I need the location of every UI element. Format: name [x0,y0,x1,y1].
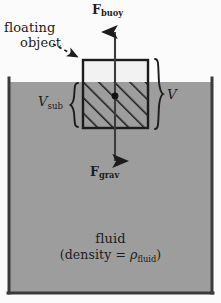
volume-total-label: V [167,88,177,102]
floating-object-line2: object [4,36,61,51]
density-prefix: (density = [60,247,130,262]
vsub-symbol: V [38,94,48,109]
buoyant-force-label: Fbuoy [92,4,123,17]
gravity-force-label: Fgrav [90,166,119,179]
center-of-mass-dot [112,93,119,100]
volume-submerged-label: Vsub [38,95,63,108]
density-suffix: ) [156,247,161,262]
rho-subscript: fluid [138,254,157,264]
fluid-name: fluid [95,231,125,246]
fluid-density-line: (density = ρfluid) [0,247,221,263]
fbuoy-subscript: buoy [101,8,123,18]
rho-symbol: ρ [130,247,137,262]
fluid-caption: fluid(density = ρfluid) [0,231,221,263]
v-symbol: V [167,86,177,102]
floating-object-label: floatingobject [4,21,61,50]
buoyancy-diagram: Fbuoy Fgrav floatingobject Vsub V fluid(… [0,0,221,303]
fbuoy-symbol: F [92,2,101,17]
fgrav-subscript: grav [99,170,119,180]
fgrav-symbol: F [90,164,99,179]
vsub-subscript: sub [48,101,63,111]
floating-object-line1: floating [4,20,55,35]
